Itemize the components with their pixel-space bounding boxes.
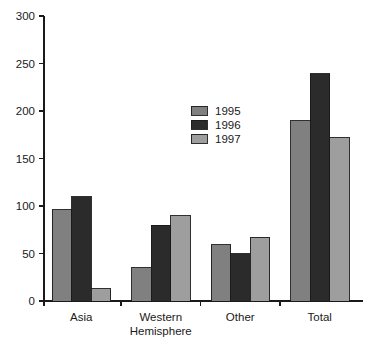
- y-tick-label: 250: [16, 58, 35, 70]
- bar: [250, 237, 270, 301]
- x-axis: [44, 301, 363, 306]
- x-category-label: Other: [226, 311, 255, 323]
- x-category-label: Total: [308, 311, 332, 323]
- y-tick-label: 200: [16, 105, 35, 117]
- bar: [310, 74, 330, 301]
- bar: [211, 245, 231, 301]
- legend-label: 1997: [215, 133, 241, 145]
- legend-label: 1995: [215, 105, 241, 117]
- y-tick-label: 0: [29, 295, 35, 307]
- bar: [72, 197, 92, 302]
- x-category-label: Hemisphere: [130, 325, 192, 337]
- bar: [52, 210, 72, 301]
- x-category-label: Western: [139, 311, 182, 323]
- y-tick-label: 100: [16, 200, 35, 212]
- legend-swatch: [191, 120, 207, 129]
- bar: [132, 268, 152, 301]
- legend-label: 1996: [215, 119, 241, 131]
- x-category-label: Asia: [70, 311, 93, 323]
- y-axis: 050100150200250300: [16, 10, 44, 307]
- legend-swatch: [191, 106, 207, 115]
- y-tick-label: 300: [16, 10, 35, 22]
- bar: [330, 138, 350, 301]
- bar-chart: 050100150200250300 AsiaWesternHemisphere…: [0, 0, 377, 343]
- bar: [291, 121, 311, 302]
- legend-swatch: [191, 134, 207, 143]
- category-labels: AsiaWesternHemisphereOtherTotal: [70, 311, 332, 337]
- chart-canvas: 050100150200250300 AsiaWesternHemisphere…: [0, 0, 377, 343]
- y-tick-label: 150: [16, 153, 35, 165]
- bar: [231, 254, 251, 302]
- y-tick-label: 50: [22, 248, 35, 260]
- chart-legend: 199519961997: [191, 105, 241, 145]
- bar: [151, 225, 171, 301]
- bar: [171, 216, 191, 302]
- bar: [91, 289, 111, 301]
